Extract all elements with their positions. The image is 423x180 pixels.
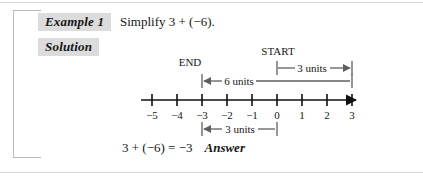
axis-ticks — [152, 94, 352, 106]
problem-statement: Simplify 3 + (−6). — [120, 14, 215, 30]
annotation-label: 3 units — [225, 123, 255, 135]
answer-line: 3 + (−6) = −3Answer — [122, 140, 245, 156]
worked-example-figure: Example 1 Simplify 3 + (−6). Solution — [0, 0, 423, 180]
bottom-divider-rule — [0, 172, 423, 173]
tick-label: 2 — [324, 109, 330, 121]
annotation-jump-start-to-end: 3 units — [202, 122, 277, 136]
annotation-jump-start-to-three: 3 units — [277, 61, 352, 75]
annotation-jump-three-to-end: 6 units — [202, 74, 352, 88]
start-marker-label: START — [261, 45, 295, 57]
annotation-label: 3 units — [297, 62, 327, 74]
solution-label-chip: Solution — [38, 38, 99, 56]
top-divider-rule — [0, 2, 423, 3]
tick-label: −1 — [246, 109, 258, 121]
tick-label: −2 — [221, 109, 233, 121]
annotation-label: 6 units — [224, 75, 254, 87]
frame-left-border — [13, 10, 14, 158]
tick-label: −4 — [171, 109, 183, 121]
tick-label: 3 — [349, 109, 355, 121]
axis-tick-labels: −5 −4 −3 −2 −1 0 1 2 3 — [146, 109, 355, 121]
end-marker-label: END — [179, 56, 202, 68]
tick-label: 0 — [274, 109, 280, 121]
answer-equation: 3 + (−6) = −3 — [122, 140, 192, 155]
frame-top-corner-stub — [13, 10, 41, 11]
answer-keyword: Answer — [204, 140, 244, 155]
tick-label: −5 — [146, 109, 158, 121]
tick-label: −3 — [196, 109, 208, 121]
example-label-chip: Example 1 — [38, 13, 111, 31]
tick-label: 1 — [299, 109, 305, 121]
frame-bottom-corner-stub — [13, 157, 41, 158]
